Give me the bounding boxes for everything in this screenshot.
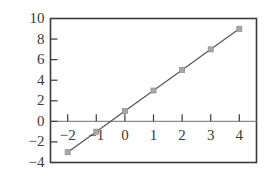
- x-axis-tick-label: −2: [56, 128, 80, 143]
- x-axis-tick-label: 1: [142, 128, 166, 143]
- data-point-marker: [237, 26, 242, 31]
- data-point-marker: [151, 88, 156, 93]
- x-axis-tick-label: 4: [227, 128, 251, 143]
- y-axis-tick-label: 8: [37, 32, 45, 47]
- chart-figure: 1086420−2−4 −2−101234: [0, 0, 268, 176]
- data-point-marker: [180, 67, 185, 72]
- y-axis-tick-label: 2: [37, 93, 45, 108]
- y-axis-tick-label: 0: [37, 114, 45, 129]
- y-axis-tick-label: −4: [29, 155, 45, 170]
- data-point-marker: [65, 150, 70, 155]
- data-point-marker: [208, 47, 213, 52]
- y-axis-tick-label: 4: [37, 73, 45, 88]
- data-point-marker: [122, 109, 127, 114]
- line-chart-plot: [0, 0, 268, 176]
- x-axis-tick-label: 0: [113, 128, 137, 143]
- x-axis-tick-label: 2: [170, 128, 194, 143]
- x-axis-tick-label: −1: [84, 128, 108, 143]
- y-axis-tick-label: 6: [37, 52, 45, 67]
- x-axis-tick-label: 3: [199, 128, 223, 143]
- y-axis-tick-label: 10: [30, 11, 45, 26]
- y-axis-tick-label: −2: [29, 134, 45, 149]
